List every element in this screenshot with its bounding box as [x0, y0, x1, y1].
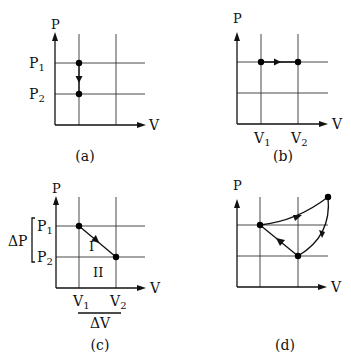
y-axis-arrow-icon: [53, 196, 59, 205]
y-axis-label: P: [233, 11, 242, 26]
panel-b-grid: [237, 34, 328, 124]
state-point-1: [76, 60, 82, 66]
direction-arrow-icon: [293, 215, 302, 221]
y-axis-arrow-icon: [52, 32, 58, 41]
state-point-2: [295, 59, 301, 65]
delta-v-label: ΔV: [90, 315, 111, 331]
region-ii-label: II: [93, 265, 103, 280]
panel-caption: (d): [275, 337, 295, 353]
process-path-upper: [260, 197, 328, 225]
x-axis-label: V: [148, 117, 160, 133]
panel-a-grid: [55, 34, 145, 125]
x-axis-arrow-icon: [319, 121, 328, 127]
process-path-right: [298, 197, 328, 256]
state-point-2: [113, 254, 119, 260]
state-point-2: [325, 194, 331, 200]
panel-d: P V (d): [233, 178, 342, 353]
state-point-3: [295, 253, 301, 259]
v1-label: V1: [72, 293, 90, 311]
pv-diagram-figure: P V P1 P2 (a) P V V1 V2 (b): [0, 0, 351, 359]
panel-b-axes: [234, 32, 328, 127]
y-axis-arrow-icon: [234, 199, 240, 208]
p1-label: P1: [37, 218, 53, 236]
panel-caption: (a): [75, 148, 94, 164]
state-point-2: [76, 91, 82, 97]
state-point-1: [76, 223, 82, 229]
direction-arrow-icon: [76, 76, 83, 83]
panel-a: P V P1 P2 (a): [29, 17, 160, 164]
v1-label: V1: [253, 130, 271, 148]
panel-a-axes: [52, 32, 146, 128]
p1-label: P1: [29, 55, 45, 73]
panel-caption: (b): [273, 148, 293, 164]
x-axis-arrow-icon: [318, 284, 327, 290]
p2-label: P2: [29, 86, 45, 104]
x-axis-label: V: [331, 116, 343, 132]
region-i-label: I: [89, 239, 94, 254]
v2-label: V2: [109, 293, 127, 311]
state-point-1: [258, 59, 264, 65]
y-axis-label: P: [52, 181, 61, 196]
panel-b: P V V1 V2 (b): [233, 11, 343, 164]
x-axis-arrow-icon: [137, 122, 146, 128]
delta-p-label: ΔP: [8, 233, 28, 249]
y-axis-label: P: [51, 17, 60, 32]
panel-caption: (c): [91, 337, 110, 353]
x-axis-arrow-icon: [137, 285, 146, 291]
x-axis-label: V: [149, 280, 161, 296]
delta-p-bracket: [32, 218, 35, 262]
state-point-1: [257, 222, 263, 228]
y-axis-label: P: [233, 178, 242, 193]
direction-arrow-icon: [274, 59, 281, 66]
y-axis-arrow-icon: [234, 32, 240, 41]
v2-label: V2: [290, 130, 308, 148]
p2-label: P2: [37, 249, 53, 267]
panel-c: P V P1 P2 ΔP V1 V2 ΔV I II (c): [8, 181, 161, 353]
x-axis-label: V: [330, 279, 342, 295]
